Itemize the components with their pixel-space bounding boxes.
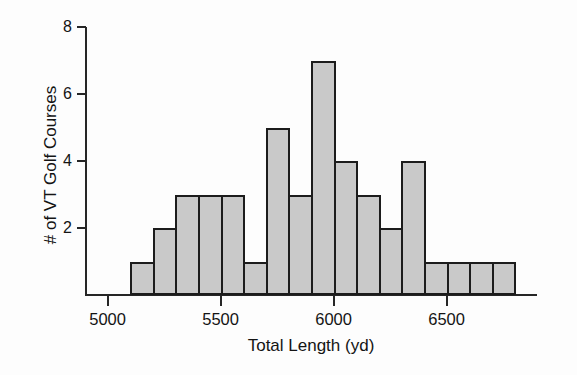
histogram-bar — [356, 195, 381, 296]
y-axis-tick — [77, 93, 86, 95]
y-axis-tick-label: 8 — [46, 19, 72, 35]
histogram-bar — [243, 262, 268, 296]
plot-area: 2468 5000550060006500 # of VT Golf Cours… — [0, 0, 577, 375]
x-axis-tick-label: 5000 — [73, 310, 143, 329]
histogram-bar — [447, 262, 472, 296]
histogram-bar — [401, 161, 426, 295]
x-axis-tick-label: 6500 — [412, 310, 482, 329]
y-axis-tick — [77, 26, 86, 28]
histogram-figure: 2468 5000550060006500 # of VT Golf Cours… — [0, 0, 577, 375]
y-axis-tick — [77, 160, 86, 162]
x-axis-tick — [446, 296, 448, 306]
x-axis-tick-label: 6000 — [299, 310, 369, 329]
histogram-bar — [311, 61, 336, 296]
histogram-bar — [469, 262, 494, 296]
histogram-bar — [424, 262, 449, 296]
x-axis-tick-label: 5500 — [186, 310, 256, 329]
x-axis-tick — [107, 296, 109, 306]
histogram-bar — [130, 262, 155, 296]
x-axis-tick — [333, 296, 335, 306]
histogram-bar — [334, 161, 359, 295]
histogram-bar — [198, 195, 223, 296]
histogram-bar — [175, 195, 200, 296]
histogram-bar — [153, 228, 178, 295]
histogram-bar — [288, 195, 313, 296]
histogram-bar — [266, 128, 291, 296]
y-axis-label: # of VT Golf Courses — [41, 40, 61, 290]
x-axis-label: Total Length (yd) — [85, 336, 537, 356]
histogram-bar — [221, 195, 246, 296]
histogram-bar — [492, 262, 517, 296]
x-axis-tick — [220, 296, 222, 306]
y-axis-tick — [77, 227, 86, 229]
histogram-bar — [379, 228, 404, 295]
